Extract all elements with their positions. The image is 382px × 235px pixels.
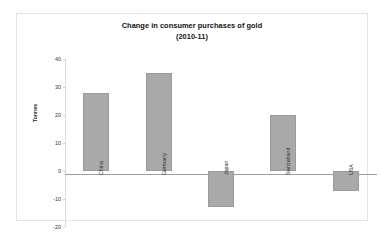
category-label: Switzerland [285,148,291,175]
chart-frame: Change in consumer purchases of gold (20… [16,13,368,221]
y-tick-label: 40 [55,56,61,62]
chart-title-main: Change in consumer purchases of gold [17,20,367,31]
category-label: USA [348,164,354,175]
y-tick-label: 20 [55,112,61,118]
y-tick-mark [63,171,65,172]
category-label: China [98,161,104,175]
y-tick-mark [63,143,65,144]
category-label: Germany [161,153,167,175]
y-tick-mark [63,87,65,88]
y-axis-line [65,59,66,227]
bar-switzerland[interactable] [270,115,296,171]
bar-usa[interactable] [333,171,359,191]
plot-area: 403020100-10-20 ChinaGermanyJapanSwitzer… [65,59,377,227]
chart-title-subtitle: (2010-11) [17,31,367,42]
y-tick-mark [63,59,65,60]
bar-japan[interactable] [208,171,234,207]
y-tick-label: -20 [53,224,61,230]
y-tick-mark [63,199,65,200]
y-tick-label: 30 [55,84,61,90]
y-tick-label: 0 [58,168,61,174]
bar-china[interactable] [83,93,109,171]
y-tick-mark [63,115,65,116]
y-tick-mark [63,227,65,228]
y-tick-label: -10 [53,196,61,202]
bar-germany[interactable] [146,73,172,171]
y-tick-label: 10 [55,140,61,146]
category-label: Japan [223,161,229,175]
chart-title: Change in consumer purchases of gold (20… [17,20,367,42]
y-axis-title: Tonnes [32,104,38,122]
